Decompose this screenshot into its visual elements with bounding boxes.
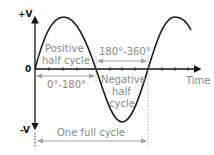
negative-half-cycle-label-2: half [112,86,131,97]
negative-half-cycle-label-3: cycle [109,98,135,109]
y-top-label: +V [18,9,33,19]
x-axis [35,67,200,71]
negative-half-cycle-label-1: Negative [101,74,146,85]
positive-half-cycle-label-2: half cycle [42,55,90,66]
y-bottom-label: -V [20,125,30,135]
origin-label: 0 [25,64,31,74]
full-cycle-label: One full cycle [57,127,125,138]
sine-wave-diagram: +V -V 0 Time Positive half cycle Negativ… [0,0,214,155]
positive-half-cycle-label-1: Positive [45,43,84,54]
range-180-360-label: 180°-360° [99,46,151,57]
range-0-180-label: 0°-180° [47,79,86,90]
x-axis-label: Time [185,75,210,86]
